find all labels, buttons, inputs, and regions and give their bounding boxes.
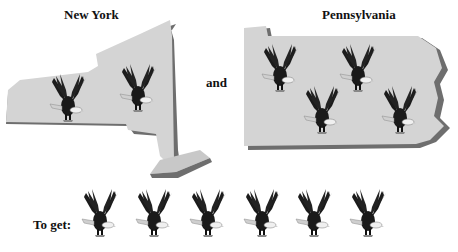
diagram-canvas [0,0,458,252]
pennsylvania-label: Pennsylvania [322,7,396,23]
eagle-icon [136,189,172,237]
and-label: and [206,75,227,91]
eagle-icon [82,189,118,237]
eagle-icon [296,189,332,237]
result-label: To get: [33,217,71,233]
eagle-icon [350,189,386,237]
new-york-label: New York [64,7,119,23]
new-york-map [6,20,212,178]
eagle-icon [190,189,226,237]
pennsylvania-map [244,26,450,150]
eagle-icon [244,189,280,237]
result-eagles [82,189,386,237]
